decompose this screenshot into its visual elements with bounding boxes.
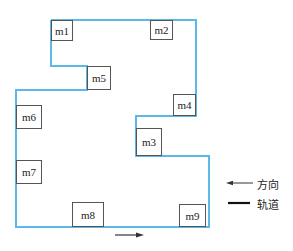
machine-m2: m2 xyxy=(150,20,173,40)
track-path xyxy=(16,20,209,227)
flow-direction-arrow xyxy=(115,233,144,238)
track-diagram xyxy=(0,0,293,251)
machine-m7: m7 xyxy=(16,160,42,184)
machine-m8: m8 xyxy=(72,202,104,227)
machine-m9: m9 xyxy=(179,204,206,227)
machine-m1: m1 xyxy=(51,20,73,41)
machine-m4: m4 xyxy=(173,94,196,116)
machine-m5: m5 xyxy=(87,66,111,90)
legend-track-label: 轨道 xyxy=(257,196,279,212)
legend-direction-label: 方向 xyxy=(257,176,279,192)
machine-m6: m6 xyxy=(16,105,42,129)
machine-m3: m3 xyxy=(136,128,162,156)
legend-direction-arrow-icon xyxy=(226,181,253,185)
